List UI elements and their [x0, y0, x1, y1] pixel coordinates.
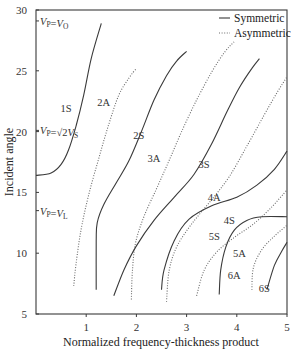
x-tick-label: 3 — [184, 321, 190, 333]
curve-label-6s: 6S — [259, 283, 270, 294]
legend-label-asymmetric: Asymmetric — [234, 27, 291, 40]
curve-4a — [167, 77, 288, 302]
y-tick-label: 30 — [16, 4, 28, 16]
curve-label-3s: 3S — [199, 159, 210, 170]
curve-5a — [197, 190, 287, 296]
curve-2s — [96, 51, 186, 289]
x-axis-title: Normalized frequency-thickness product — [63, 335, 260, 349]
y-tick-label: 5 — [22, 308, 28, 320]
reference-label: VP=VO — [40, 16, 69, 31]
reference-label: VP=VL — [40, 206, 68, 221]
legend: SymmetricAsymmetric — [219, 12, 291, 40]
dispersion-curves — [36, 23, 287, 301]
curve-label-1s: 1S — [61, 103, 72, 114]
y-axis-title: Incident angle — [2, 128, 16, 196]
y-tick-label: 25 — [16, 65, 28, 77]
curve-3a — [131, 42, 234, 300]
curve-label-5a: 5A — [233, 248, 246, 259]
curve-label-2a: 2A — [97, 97, 110, 108]
x-tick-label: 5 — [284, 321, 290, 333]
curve-label-6a: 6A — [228, 270, 241, 281]
x-tick-label: 2 — [134, 321, 140, 333]
incident-angle-chart: VP=VOVP=√2VSVP=VL 1S2A2S3A3S4A4S5A5S6A6S… — [0, 0, 296, 354]
curve-label-4a: 4A — [208, 192, 221, 203]
legend-label-symmetric: Symmetric — [234, 12, 284, 25]
x-tick-label: 4 — [234, 321, 240, 333]
plot-area-border — [36, 10, 287, 314]
y-tick-label: 20 — [16, 126, 28, 138]
y-tick-label: 10 — [16, 247, 28, 259]
curve-label-3a: 3A — [148, 153, 161, 164]
curve-label-5s: 5S — [209, 231, 220, 242]
curve-5s — [219, 216, 287, 294]
plot-frame — [36, 10, 287, 314]
y-tick-label: 15 — [16, 186, 28, 198]
reference-lines: VP=VOVP=√2VSVP=VL — [36, 16, 78, 221]
x-tick-label: 1 — [83, 321, 89, 333]
curve-3s — [114, 59, 260, 296]
curve-label-2s: 2S — [133, 130, 144, 141]
curve-label-4s: 4S — [224, 215, 235, 226]
curve-1s — [36, 23, 101, 175]
